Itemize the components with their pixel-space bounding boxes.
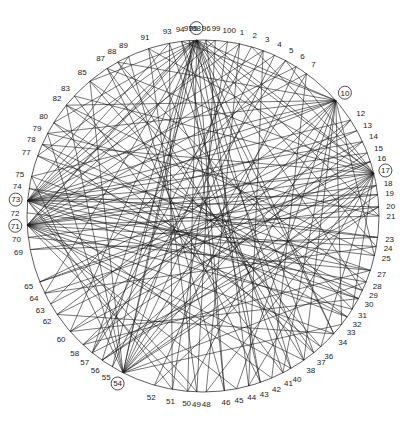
node-label: 41 xyxy=(284,379,293,388)
node-id: 49 xyxy=(192,400,201,409)
node-id: 44 xyxy=(247,393,256,402)
node-label: 20 xyxy=(386,202,395,211)
node-label: 83 xyxy=(61,84,70,93)
edge xyxy=(182,41,304,360)
node-id: 2 xyxy=(253,31,258,40)
node-id: 10 xyxy=(340,89,349,98)
node-label: 91 xyxy=(140,33,149,42)
node-id: 73 xyxy=(11,195,20,204)
node-id: 38 xyxy=(306,366,315,375)
node-id: 43 xyxy=(260,390,269,399)
node-id: 3 xyxy=(265,35,270,44)
node-id: 79 xyxy=(33,124,42,133)
edge xyxy=(32,101,336,177)
node-label: 24 xyxy=(384,244,393,253)
node-label: 19 xyxy=(385,189,394,198)
node-label: 75 xyxy=(15,170,24,179)
node-label: 79 xyxy=(33,124,42,133)
node-label: 97 xyxy=(184,24,193,33)
hub-node-label: 71 xyxy=(9,219,22,232)
node-id: 45 xyxy=(234,396,243,405)
edge xyxy=(54,40,197,123)
node-id: 14 xyxy=(369,132,378,141)
node-label: 89 xyxy=(119,41,128,50)
node-id: 12 xyxy=(356,109,365,118)
node-id: 82 xyxy=(52,94,61,103)
node-label: 13 xyxy=(363,121,372,130)
node-id: 19 xyxy=(385,189,394,198)
node-id: 41 xyxy=(284,379,293,388)
node-label: 85 xyxy=(78,68,87,77)
node-id: 13 xyxy=(363,121,372,130)
node-label: 1 xyxy=(240,28,245,37)
node-id: 6 xyxy=(300,52,305,61)
node-label: 16 xyxy=(377,154,386,163)
node-id: 42 xyxy=(272,385,281,394)
node-id: 100 xyxy=(223,26,237,35)
node-label: 44 xyxy=(247,393,256,402)
node-id: 78 xyxy=(27,135,36,144)
node-label: 78 xyxy=(27,135,36,144)
node-id: 97 xyxy=(184,24,193,33)
node-id: 40 xyxy=(293,375,302,384)
node-id: 20 xyxy=(386,202,395,211)
node-id: 51 xyxy=(166,397,175,406)
node-id: 33 xyxy=(347,328,356,337)
node-label: 55 xyxy=(102,373,111,382)
node-label: 69 xyxy=(14,248,23,257)
node-label: 38 xyxy=(306,366,315,375)
node-label: 56 xyxy=(91,366,100,375)
node-id: 23 xyxy=(385,235,394,244)
node-label: 74 xyxy=(13,182,22,191)
node-label: 62 xyxy=(43,317,52,326)
node-id: 16 xyxy=(377,154,386,163)
node-id: 30 xyxy=(365,300,374,309)
node-label: 3 xyxy=(265,35,270,44)
node-label: 37 xyxy=(317,358,326,367)
edge xyxy=(149,49,374,174)
node-id: 25 xyxy=(382,254,391,263)
node-id: 57 xyxy=(80,358,89,367)
node-id: 64 xyxy=(30,294,39,303)
node-label: 93 xyxy=(163,27,172,36)
hub-node-label: 10 xyxy=(338,86,351,99)
node-id: 24 xyxy=(384,244,393,253)
node-label: 48 xyxy=(202,400,211,409)
node-label: 25 xyxy=(382,254,391,263)
node-label: 15 xyxy=(374,144,383,153)
node-label: 2 xyxy=(253,31,258,40)
node-id: 18 xyxy=(384,179,393,188)
node-label: 4 xyxy=(277,40,282,49)
node-label: 64 xyxy=(30,294,39,303)
node-id: 28 xyxy=(373,282,382,291)
hub-node-label: 54 xyxy=(111,377,124,390)
node-label: 96 xyxy=(202,24,211,33)
node-label: 60 xyxy=(57,335,66,344)
edge xyxy=(182,41,336,100)
node-label: 42 xyxy=(272,385,281,394)
node-id: 58 xyxy=(70,349,79,358)
node-label: 51 xyxy=(166,397,175,406)
node-label: 45 xyxy=(234,396,243,405)
node-id: 48 xyxy=(202,400,211,409)
node-id: 85 xyxy=(78,68,87,77)
node-id: 72 xyxy=(11,209,20,218)
node-id: 4 xyxy=(277,40,282,49)
node-id: 88 xyxy=(107,47,116,56)
node-label: 29 xyxy=(369,291,378,300)
node-id: 29 xyxy=(369,291,378,300)
node-id: 65 xyxy=(24,282,33,291)
node-id: 89 xyxy=(119,41,128,50)
node-label: 63 xyxy=(36,306,45,315)
node-label: 77 xyxy=(22,148,31,157)
node-id: 62 xyxy=(43,317,52,326)
edge xyxy=(28,142,363,201)
node-id: 75 xyxy=(15,170,24,179)
node-id: 27 xyxy=(377,270,386,279)
edge xyxy=(27,225,304,360)
node-label: 52 xyxy=(147,393,156,402)
node-id: 87 xyxy=(96,54,105,63)
node-id: 1 xyxy=(240,28,245,37)
node-label: 70 xyxy=(12,235,21,244)
node-label: 49 xyxy=(192,400,201,409)
